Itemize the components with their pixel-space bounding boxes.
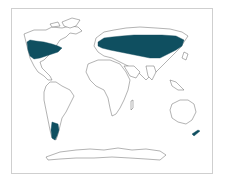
world-map — [0, 0, 227, 182]
japan — [182, 52, 188, 60]
africa — [86, 60, 130, 116]
madagascar — [131, 100, 133, 110]
arctic-islands — [50, 22, 60, 27]
antarctica — [46, 148, 166, 160]
highlight-new-zealand — [192, 130, 200, 136]
greenland — [62, 18, 80, 28]
highlight-patagonia — [51, 122, 59, 140]
australia — [170, 100, 196, 124]
south-america — [44, 82, 74, 140]
southeast-asia-islands — [170, 80, 184, 90]
